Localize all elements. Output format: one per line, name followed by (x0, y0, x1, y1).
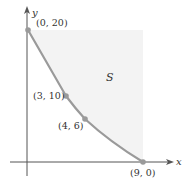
point-label-4-6: (4, 6) (58, 120, 84, 131)
point-0-20 (25, 27, 31, 33)
point-label-9-0: (9, 0) (130, 167, 156, 178)
point-9-0 (140, 159, 146, 165)
point-label-0-20: (0, 20) (36, 17, 68, 28)
region-label: S (106, 71, 114, 84)
x-axis-label: x (176, 156, 182, 167)
point-label-3-10: (3, 10) (33, 90, 65, 101)
diagram: x y (0, 20) (3, 10) (4, 6) (9, 0) S (0, 0, 187, 186)
